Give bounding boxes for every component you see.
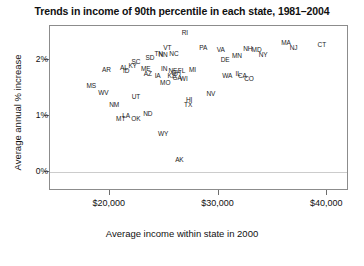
state-point-ky: KY (128, 61, 136, 68)
y-tick-label-1: 1% (36, 110, 48, 120)
state-point-ak: AK (175, 156, 183, 163)
state-point-mo: MO (160, 78, 170, 85)
chart-title: Trends in income of 90th percentile in e… (0, 5, 364, 17)
state-point-ut: UT (132, 93, 140, 100)
state-point-pa: PA (199, 44, 207, 51)
x-tick-label-2: $40,000 (310, 198, 343, 208)
state-point-fl: FL (178, 66, 185, 73)
state-point-va: VA (217, 46, 225, 53)
y-tick-label-2: 2% (36, 54, 48, 64)
x-axis-title: Average income within state in 2000 (0, 228, 364, 239)
state-point-in: IN (161, 65, 167, 72)
state-point-nj: NJ (290, 44, 298, 51)
state-point-tx: TX (184, 100, 192, 107)
state-point-nm: NM (109, 101, 119, 108)
state-point-ny: NY (259, 50, 268, 57)
chart-figure: Trends in income of 90th percentile in e… (0, 0, 364, 266)
scatter-points-layer: RIMANJCTPAVANHMDNYMNDEVTNCTNNNSDSCKYALID… (50, 26, 347, 189)
state-point-mn: MN (232, 51, 242, 58)
state-point-nd: ND (143, 109, 152, 116)
state-point-wa: WA (222, 71, 232, 78)
state-point-nc: NC (169, 49, 178, 56)
x-tick-2 (326, 190, 327, 195)
state-point-mt: MT (116, 115, 125, 122)
state-point-co: CO (244, 75, 254, 82)
state-point-ok: OK (131, 115, 140, 122)
state-point-nv: NV (206, 89, 215, 96)
plot-area: RIMANJCTPAVANHMDNYMNDEVTNCTNNNSDSCKYALID… (49, 25, 348, 190)
x-tick-label-1: $30,000 (201, 198, 234, 208)
state-point-de: DE (221, 56, 230, 63)
state-point-az: AZ (144, 69, 152, 76)
state-point-ct: CT (318, 40, 326, 47)
x-tick-0 (109, 190, 110, 195)
state-point-nn: NN (158, 50, 167, 57)
state-point-wy: WY (158, 129, 168, 136)
state-point-ar: AR (102, 65, 111, 72)
state-point-ms: MS (87, 82, 97, 89)
state-point-mi: MI (189, 66, 196, 73)
x-tick-1 (218, 190, 219, 195)
y-tick-label-0: 0% (36, 166, 48, 176)
y-axis-title: Average annual % increase (12, 33, 23, 193)
state-point-sd: SD (146, 54, 155, 61)
state-point-ri: RI (182, 28, 188, 35)
x-tick-label-0: $20,000 (93, 198, 126, 208)
state-point-wv: WV (98, 88, 108, 95)
state-point-wi: WI (180, 75, 188, 82)
state-point-id: ID (123, 67, 129, 74)
